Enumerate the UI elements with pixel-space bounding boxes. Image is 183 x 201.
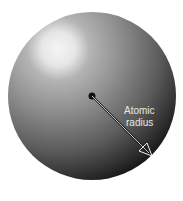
atomic-label: Atomic [124,105,155,116]
radius-label: radius [126,117,153,128]
atomic-radius-diagram: Atomic radius [0,0,183,201]
